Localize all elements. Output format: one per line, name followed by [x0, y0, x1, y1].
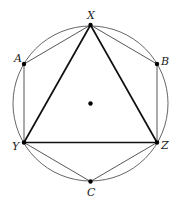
point-z — [155, 140, 159, 144]
point-c — [88, 179, 92, 183]
label-x: X — [86, 9, 96, 22]
geometry-diagram: X A B Y Z C — [0, 0, 179, 207]
point-x — [88, 23, 92, 27]
circle-center-point — [88, 101, 92, 105]
label-y: Y — [12, 140, 21, 153]
label-a: A — [13, 52, 22, 65]
point-y — [22, 140, 26, 144]
label-z: Z — [160, 139, 169, 152]
triangle-xyz — [24, 25, 157, 143]
label-b: B — [160, 55, 169, 68]
label-c: C — [87, 186, 96, 199]
point-b — [155, 62, 159, 66]
point-a — [22, 62, 26, 66]
